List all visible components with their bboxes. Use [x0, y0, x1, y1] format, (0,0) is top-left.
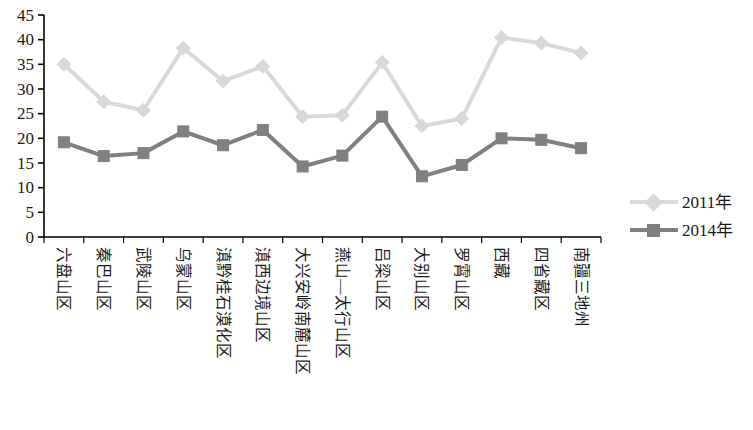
chart-legend: 2011年 2014年 [630, 188, 750, 244]
legend-swatch-2011 [630, 193, 678, 211]
x-axis-category-label: 滇西边境山区 [255, 247, 271, 343]
x-axis-category-label: 南疆三地州 [573, 247, 589, 327]
diamond-marker-icon [644, 193, 662, 211]
line-chart: 454035302520151050 六盘山区秦巴山区武陵山区乌蒙山区滇黔桂石漠… [0, 0, 753, 430]
x-axis-category-label: 秦巴山区 [96, 247, 112, 311]
x-axis-category-label: 大别山区 [414, 247, 430, 311]
legend-label-2011: 2011年 [682, 194, 732, 211]
x-axis-category-label: 四省藏区 [533, 247, 549, 311]
x-axis-category-label: 吕梁山区 [374, 247, 390, 311]
legend-label-2014: 2014年 [682, 222, 733, 239]
legend-swatch-2014 [630, 221, 678, 239]
x-axis-category-label: 六盘山区 [56, 247, 72, 311]
x-axis-category-label: 滇黔桂石漠化区 [215, 247, 231, 359]
square-marker-icon [647, 224, 660, 237]
x-axis-category-label: 罗霄山区 [454, 247, 470, 311]
x-axis-category-label: 大兴安岭南麓山区 [295, 247, 311, 375]
x-axis-category-label: 武陵山区 [135, 247, 151, 311]
legend-item-2011[interactable]: 2011年 [630, 188, 750, 216]
x-axis-category-label: 乌蒙山区 [175, 247, 191, 311]
x-axis-category-label: 燕山—太行山区 [334, 247, 350, 359]
x-axis-category-label: 西藏 [494, 247, 510, 279]
legend-item-2014[interactable]: 2014年 [630, 216, 750, 244]
